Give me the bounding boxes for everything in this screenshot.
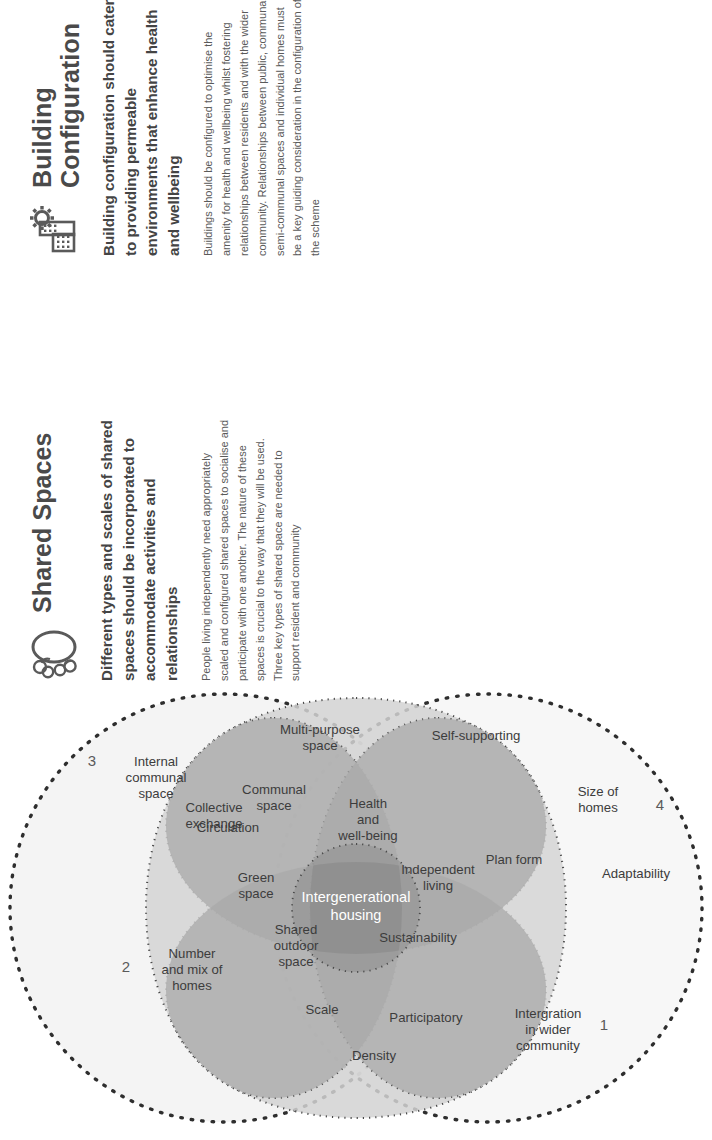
venn-diagram: 2 3 1 4 Number and mix of homes Internal… (6, 684, 706, 1132)
svg-text:outdoor: outdoor (274, 938, 319, 953)
venn-label-adaptability: Adaptability (602, 866, 671, 881)
building-configuration-title-line1: Building (28, 23, 56, 188)
svg-text:Internal: Internal (134, 754, 178, 769)
svg-text:exchange: exchange (185, 816, 242, 831)
svg-text:Intergration: Intergration (515, 1006, 582, 1021)
venn-circle-number-3: 3 (88, 752, 96, 769)
venn-label-self-supporting: Self-supporting (432, 728, 521, 743)
venn-label-scale: Scale (306, 1002, 339, 1017)
people-circle-icon (26, 625, 82, 681)
svg-text:Size of: Size of (578, 784, 619, 799)
section-building-configuration: Building Configuration Building configur… (0, 0, 712, 260)
svg-text:space: space (138, 786, 173, 801)
svg-text:Shared: Shared (275, 922, 318, 937)
shared-spaces-title: Shared Spaces (26, 432, 56, 613)
svg-text:Intergenerational: Intergenerational (302, 889, 411, 905)
svg-text:housing: housing (331, 907, 382, 923)
svg-text:communal: communal (126, 770, 187, 785)
svg-text:space: space (302, 738, 337, 753)
svg-text:Multi-purpose: Multi-purpose (280, 722, 360, 737)
shared-spaces-body: People living independently need appropr… (198, 419, 305, 681)
venn-label-collective-exchange: Collective exchange (185, 800, 242, 831)
svg-text:well-being: well-being (337, 828, 397, 843)
svg-text:homes: homes (578, 800, 618, 815)
venn-label-green-space: Green space (238, 870, 275, 901)
svg-text:living: living (423, 878, 453, 893)
venn-label-plan-form: Plan form (486, 852, 542, 867)
section-shared-spaces: Shared Spaces Different types and scales… (0, 399, 712, 685)
svg-text:space: space (256, 798, 291, 813)
shared-spaces-lede: Different types and scales of shared spa… (96, 419, 182, 681)
rotated-page: 2 3 1 4 Number and mix of homes Internal… (0, 0, 712, 1140)
shared-spaces-header: Shared Spaces (26, 405, 82, 681)
svg-text:homes: homes (172, 978, 212, 993)
svg-text:space: space (278, 954, 313, 969)
building-configuration-title: Building Configuration (26, 23, 84, 188)
venn-label-participatory: Participatory (389, 1010, 463, 1025)
svg-text:community: community (516, 1038, 580, 1053)
venn-svg: 2 3 1 4 Number and mix of homes Internal… (6, 684, 706, 1132)
building-configuration-title-line2: Configuration (56, 23, 84, 188)
svg-text:and mix of: and mix of (162, 962, 223, 977)
svg-text:in wider: in wider (525, 1022, 571, 1037)
venn-label-shared-outdoor-space: Shared outdoor space (274, 922, 319, 969)
venn-circle-label-4: Size of homes (578, 784, 619, 815)
svg-text:Green: Green (238, 870, 275, 885)
shared-spaces-body-paragraph: People living independently need appropr… (198, 419, 305, 681)
svg-text:Health: Health (349, 796, 387, 811)
svg-text:Independent: Independent (401, 862, 475, 877)
svg-text:Communal: Communal (242, 782, 306, 797)
building-configuration-body: Buildings should be configured to optimi… (200, 0, 325, 256)
svg-text:and: and (357, 812, 379, 827)
svg-text:space: space (238, 886, 273, 901)
venn-circle-number-2: 2 (122, 958, 130, 975)
svg-text:Collective: Collective (185, 800, 242, 815)
venn-label-density: Density (352, 1048, 396, 1063)
building-configuration-header: Building Configuration (26, 0, 84, 256)
venn-label-sustainability: Sustainability (379, 930, 457, 945)
venn-circle-number-1: 1 (600, 1016, 608, 1033)
factory-gear-icon (26, 200, 82, 256)
building-configuration-body-paragraph: Buildings should be configured to optimi… (200, 0, 325, 256)
building-configuration-lede: Building configuration should cater to p… (98, 0, 184, 256)
venn-circle-number-4: 4 (656, 796, 664, 813)
svg-text:Number: Number (169, 946, 217, 961)
